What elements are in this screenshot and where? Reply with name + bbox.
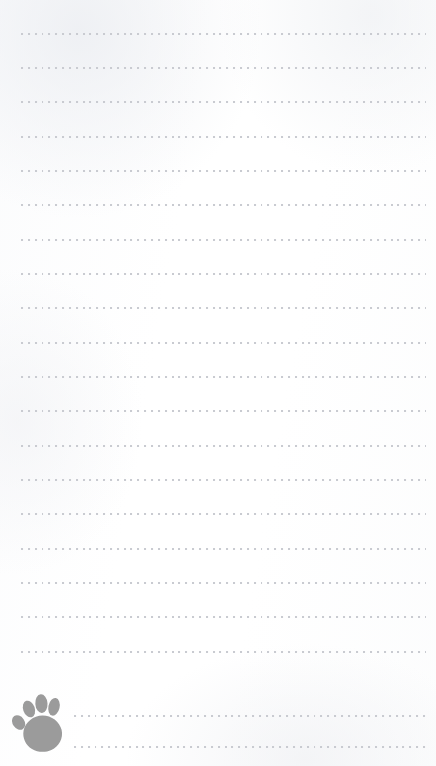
dotted-line bbox=[21, 479, 426, 481]
dotted-line-indented bbox=[74, 746, 426, 748]
dotted-line bbox=[21, 445, 426, 447]
dotted-line bbox=[21, 170, 426, 172]
dotted-line bbox=[21, 273, 426, 275]
dotted-line bbox=[21, 513, 426, 515]
dotted-line bbox=[21, 307, 426, 309]
dotted-line bbox=[21, 33, 426, 35]
paw-main-pad bbox=[23, 715, 62, 751]
dotted-line bbox=[21, 651, 426, 653]
dotted-line bbox=[21, 101, 426, 103]
dotted-line bbox=[21, 376, 426, 378]
paw-toe-left bbox=[21, 699, 38, 719]
dotted-line bbox=[21, 410, 426, 412]
dotted-line bbox=[21, 136, 426, 138]
dotted-line-indented bbox=[74, 715, 426, 717]
dotted-line bbox=[21, 342, 426, 344]
paw-toe-middle bbox=[35, 694, 48, 714]
dotted-line bbox=[21, 548, 426, 550]
dotted-line bbox=[21, 582, 426, 584]
notepad-page bbox=[0, 0, 436, 766]
dotted-line bbox=[21, 616, 426, 618]
dotted-line bbox=[21, 239, 426, 241]
dotted-line bbox=[21, 67, 426, 69]
paw-print-icon bbox=[12, 692, 66, 754]
dotted-lines-layer bbox=[0, 0, 436, 766]
paw-toe-right bbox=[47, 697, 62, 717]
dotted-line bbox=[21, 204, 426, 206]
